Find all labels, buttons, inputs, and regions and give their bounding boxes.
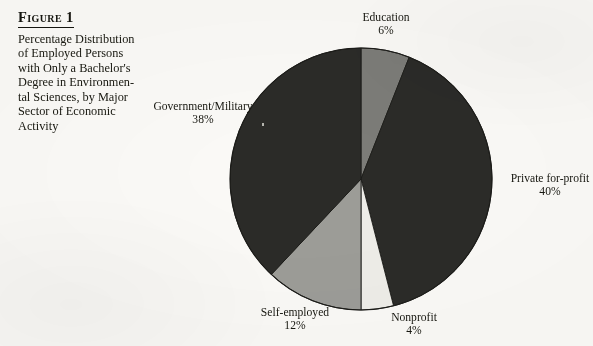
pie-label-education: Education 6% <box>338 11 434 37</box>
pie-label-self-employed: Self-employed 12% <box>243 306 347 332</box>
scan-artifact-speck <box>262 123 264 126</box>
figure-caption-text: Percentage Distribution of Employed Pers… <box>18 32 160 134</box>
figure-page: Figure 1 Percentage Distribution of Empl… <box>0 0 593 346</box>
caption-line: of Employed Persons <box>18 46 160 61</box>
pie-label-government-military: Government/Military 38% <box>144 100 262 126</box>
figure-number-title: Figure 1 <box>18 10 74 28</box>
pie-label-private-for-profit-name: Private for-profit <box>508 172 592 185</box>
pie-label-nonprofit-value: 4% <box>368 324 460 337</box>
pie-label-nonprofit: Nonprofit 4% <box>368 311 460 337</box>
pie-slice-group: Education 6%Private for-profit 40%Nonpro… <box>230 48 492 310</box>
pie-label-education-value: 6% <box>338 24 434 37</box>
pie-label-government-military-name: Government/Military <box>144 100 262 113</box>
figure-caption-block: Figure 1 Percentage Distribution of Empl… <box>18 8 160 134</box>
pie-label-private-for-profit-value: 40% <box>508 185 592 198</box>
caption-line: Percentage Distribution <box>18 32 160 47</box>
pie-label-government-military-value: 38% <box>144 113 262 126</box>
caption-line: Degree in Environmen- <box>18 75 160 90</box>
pie-label-nonprofit-name: Nonprofit <box>368 311 460 324</box>
pie-label-self-employed-name: Self-employed <box>243 306 347 319</box>
caption-line: tal Sciences, by Major <box>18 90 160 105</box>
pie-label-education-name: Education <box>338 11 434 24</box>
caption-line: Sector of Economic <box>18 104 160 119</box>
pie-label-private-for-profit: Private for-profit 40% <box>508 172 592 198</box>
pie-label-self-employed-value: 12% <box>243 319 347 332</box>
caption-line: with Only a Bachelor's <box>18 61 160 76</box>
caption-line: Activity <box>18 119 160 134</box>
